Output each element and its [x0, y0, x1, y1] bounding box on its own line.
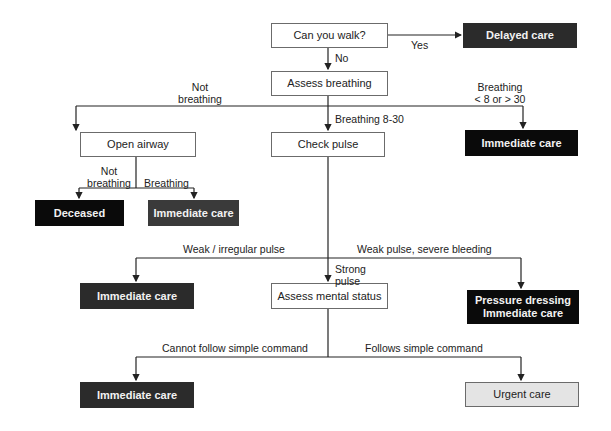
node-immediate-care-breathing-rate: Immediate care: [465, 130, 578, 156]
label-yes: Yes: [411, 39, 428, 51]
label-weak-bleeding: Weak pulse, severe bleeding: [357, 243, 492, 255]
label-breathing-rate-line2: < 8 or > 30: [470, 93, 530, 105]
label-breathing-rate-line1: Breathing: [470, 81, 530, 93]
label-breathing-8-30: Breathing 8-30: [335, 113, 404, 125]
node-can-you-walk: Can you walk?: [271, 23, 388, 48]
label-airway-not-breathing: Not breathing: [85, 165, 133, 189]
label-weak-irregular: Weak / irregular pulse: [183, 243, 285, 255]
label-strong-pulse-line2: pulse: [335, 275, 366, 287]
label-airway-not-breathing-line1: Not: [85, 165, 133, 177]
node-assess-breathing: Assess breathing: [271, 71, 388, 96]
label-not-breathing-line1: Not: [175, 81, 225, 93]
node-pressure-dressing: Pressure dressing Immediate care: [467, 290, 579, 324]
label-not-breathing-line2: breathing: [175, 93, 225, 105]
node-immediate-care-mental: Immediate care: [80, 382, 194, 408]
label-not-breathing: Not breathing: [175, 81, 225, 105]
node-open-airway: Open airway: [80, 132, 196, 157]
label-follows: Follows simple command: [365, 342, 483, 354]
node-immediate-care-weak-pulse: Immediate care: [80, 283, 194, 309]
node-immediate-care-airway: Immediate care: [148, 200, 239, 226]
node-urgent-care: Urgent care: [465, 382, 579, 407]
label-strong-pulse-line1: Strong: [335, 263, 366, 275]
label-cannot-follow: Cannot follow simple command: [162, 342, 308, 354]
node-check-pulse: Check pulse: [271, 132, 385, 157]
node-pressure-dressing-line2: Immediate care: [483, 307, 563, 320]
node-delayed-care: Delayed care: [463, 23, 577, 48]
node-pressure-dressing-line1: Pressure dressing: [475, 294, 571, 307]
label-strong-pulse: Strong pulse: [335, 263, 366, 287]
label-no: No: [335, 52, 348, 64]
label-airway-not-breathing-line2: breathing: [85, 177, 133, 189]
node-assess-mental-status: Assess mental status: [271, 283, 388, 309]
label-airway-breathing: Breathing: [144, 177, 189, 189]
label-breathing-rate: Breathing < 8 or > 30: [470, 81, 530, 105]
node-deceased: Deceased: [35, 200, 124, 226]
